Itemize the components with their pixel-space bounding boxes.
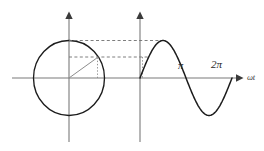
horizontal-axis-arrow-icon: [236, 74, 244, 82]
circle-vertical-axis-arrow-icon: [65, 12, 72, 20]
sine-phasor-figure: π 2π ωt: [0, 0, 264, 151]
phasor-radius-line: [69, 58, 98, 79]
tick-label-pi: π: [178, 61, 183, 72]
axis-label-omega-t: ωt: [247, 73, 255, 82]
figure-canvas: [0, 0, 264, 151]
wave-vertical-axis-arrow-icon: [136, 12, 143, 20]
tick-label-two-pi: 2π: [211, 59, 222, 70]
